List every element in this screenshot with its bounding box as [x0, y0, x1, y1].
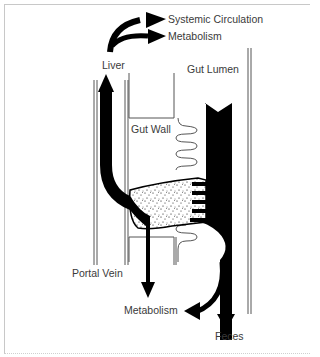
label-systemic-circulation: Systemic Circulation — [168, 14, 263, 25]
label-gut-lumen: Gut Lumen — [187, 64, 239, 75]
label-portal-vein: Portal Vein — [72, 268, 123, 279]
gut-wall-outline — [129, 73, 176, 265]
arrow-down-gut-metabolism-icon — [141, 224, 155, 298]
label-metabolism-liver: Metabolism — [168, 31, 222, 42]
arrow-up-to-liver-icon — [98, 74, 114, 92]
arrow-liver-to-systemic-icon — [110, 12, 166, 52]
label-gut-wall: Gut Wall — [131, 124, 171, 135]
arrow-curve-to-metabolism-icon — [184, 262, 222, 320]
gut-lumen-walls — [248, 48, 251, 314]
label-feces: Feces — [215, 331, 244, 342]
arrow-down-feces-icon — [217, 300, 235, 330]
label-metabolism-gut: Metabolism — [124, 305, 178, 316]
label-liver: Liver — [102, 60, 125, 71]
